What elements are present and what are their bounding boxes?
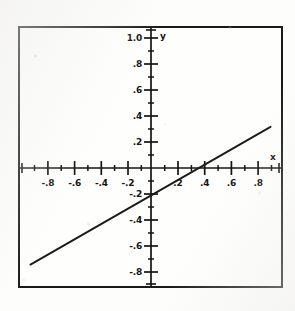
x-tick-label: -.4	[95, 179, 108, 188]
x-tick-label: -.8	[41, 179, 54, 188]
x-axis-label: x	[270, 153, 276, 162]
x-tick-label: .2	[173, 179, 182, 188]
plot-canvas	[20, 28, 281, 286]
x-tick-label: .6	[227, 179, 236, 188]
y-tick-label: -.2	[129, 190, 142, 199]
x-tick-label: -.6	[68, 179, 81, 188]
y-tick-label: .2	[133, 138, 142, 147]
y-axis-label: y	[160, 32, 166, 41]
plot-frame: -.8 -.6 -.4 -.2 .2 .4 .6 .8 1.0 .8 .6 .4…	[18, 26, 283, 288]
y-tick-label: -.6	[129, 242, 142, 251]
x-tick-label: .4	[200, 179, 209, 188]
y-tick-label: .8	[133, 60, 142, 69]
x-tick-label: -.2	[122, 179, 135, 188]
x-tick-label: .8	[253, 179, 262, 188]
y-tick-label: -.8	[129, 268, 142, 277]
y-tick-label: -.4	[129, 216, 142, 225]
graph-screenshot: -.8 -.6 -.4 -.2 .2 .4 .6 .8 1.0 .8 .6 .4…	[0, 0, 295, 311]
y-tick-label: .4	[133, 112, 142, 121]
y-tick-label: .6	[133, 86, 142, 95]
y-tick-label: 1.0	[127, 34, 142, 43]
